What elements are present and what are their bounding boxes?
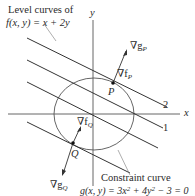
level-label-2: 2 — [163, 99, 168, 110]
grad-g-p-sub: P — [143, 45, 147, 53]
diagram-canvas — [0, 0, 195, 196]
grad-g-q-arrowhead — [62, 169, 66, 176]
grad-f-q-sub: Q — [88, 121, 93, 129]
point-q-dot — [71, 141, 75, 145]
title-line1: Level curves of — [8, 4, 73, 15]
grad-g-q-label: ∇gQ — [50, 179, 68, 194]
grad-f-q-label: ∇fQ — [77, 116, 93, 131]
constraint-title: Constraint curve — [101, 172, 171, 183]
grad-f-p-text: ∇f — [117, 68, 128, 79]
level-curve-1 — [27, 60, 163, 128]
point-p-label: P — [108, 86, 114, 97]
grad-g-p-text: ∇g — [130, 40, 143, 51]
constraint-equation: g(x, y) = 3x2 + 4y2 − 3 = 0 — [80, 184, 188, 196]
constraint-eq-suffix: − 3 = 0 — [155, 185, 189, 196]
title-line2: f(x, y) = x + 2y — [6, 17, 70, 28]
point-p-dot — [111, 81, 115, 85]
point-q-label: Q — [71, 148, 79, 159]
grad-g-q-text: ∇g — [50, 179, 63, 190]
y-axis-label: y — [90, 7, 95, 18]
grad-f-p-label: ∇fP — [117, 68, 132, 83]
level-label-1: 1 — [163, 122, 168, 133]
level-curve-3 — [27, 82, 158, 148]
x-axis-label: x — [184, 107, 189, 118]
constraint-eq-prefix: g(x, y) = 3x — [80, 185, 127, 196]
grad-g-p-label: ∇gP — [130, 40, 147, 55]
grad-g-p-arrowhead — [123, 49, 127, 56]
constraint-eq-mid: + 4y — [130, 185, 151, 196]
grad-f-q-text: ∇f — [77, 116, 88, 127]
grad-g-q-sub: Q — [63, 184, 68, 192]
grad-f-p-sub: P — [128, 73, 132, 81]
